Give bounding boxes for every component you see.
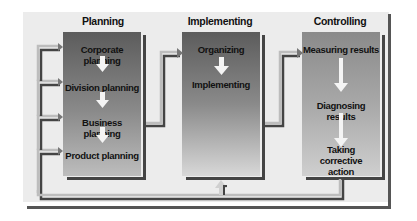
down-arrow-icon bbox=[334, 58, 348, 147]
down-arrow-icon bbox=[96, 56, 109, 143]
arrow-head-icon bbox=[58, 43, 63, 155]
up-arrow-icon bbox=[215, 180, 227, 195]
down-arrow-icon bbox=[214, 57, 229, 75]
connector-lines bbox=[0, 0, 417, 221]
